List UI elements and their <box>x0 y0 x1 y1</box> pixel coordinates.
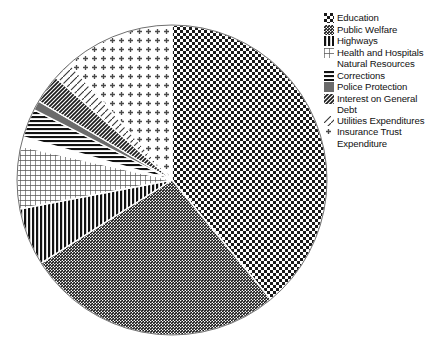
chart-legend: EducationPublic WelfareHighwaysHealth an… <box>324 12 446 172</box>
pie-slice-group <box>17 25 327 335</box>
legend-item-label: Corrections <box>337 70 385 82</box>
legend-item-label: Highways <box>337 35 378 47</box>
pie-chart-plot <box>0 0 340 356</box>
legend-item[interactable]: Natural Resources <box>324 58 446 70</box>
legend-item-label: Education <box>337 12 379 24</box>
legend-item[interactable]: Highways <box>324 35 446 47</box>
legend-item-label: Natural Resources <box>337 58 415 70</box>
legend-item-label: Insurance Trust Expenditure <box>337 126 402 148</box>
legend-item[interactable]: Education <box>324 12 446 24</box>
legend-item[interactable]: Public Welfare <box>324 24 446 36</box>
pie-chart-figure: EducationPublic WelfareHighwaysHealth an… <box>0 0 446 356</box>
legend-item-label: Interest on General Debt <box>337 93 417 115</box>
legend-item[interactable]: Health and Hospitals <box>324 47 446 59</box>
legend-swatch-icon <box>324 59 334 69</box>
legend-item[interactable]: Corrections <box>324 70 446 82</box>
legend-swatch-icon <box>324 116 334 126</box>
legend-swatch-icon <box>324 71 334 81</box>
legend-swatch-icon <box>324 13 334 23</box>
legend-item[interactable]: Insurance Trust Expenditure <box>324 126 446 148</box>
legend-swatch-icon <box>324 48 334 58</box>
legend-swatch-icon <box>324 94 334 104</box>
legend-item-label: Utilities Expenditures <box>337 115 424 127</box>
legend-swatch-icon <box>324 82 334 92</box>
legend-swatch-icon <box>324 127 334 137</box>
legend-item-label: Public Welfare <box>337 24 397 36</box>
legend-item-label: Health and Hospitals <box>337 47 424 59</box>
legend-item[interactable]: Utilities Expenditures <box>324 115 446 127</box>
legend-item-label: Police Protection <box>337 81 407 93</box>
pie-svg <box>0 0 340 356</box>
legend-swatch-icon <box>324 36 334 46</box>
legend-swatch-icon <box>324 25 334 35</box>
legend-item[interactable]: Police Protection <box>324 81 446 93</box>
legend-item[interactable]: Interest on General Debt <box>324 93 446 115</box>
